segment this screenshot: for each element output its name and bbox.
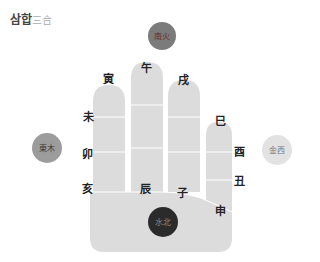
branch-zi: 子 [177, 184, 188, 200]
west-metal-label: 金西 [269, 146, 285, 155]
middle-finger [131, 62, 163, 192]
branch-chou: 丑 [234, 172, 245, 188]
east-wood-circle: 東木 [32, 133, 62, 163]
branch-shen: 申 [215, 202, 226, 218]
east-wood-label: 東木 [39, 144, 55, 153]
branch-xu: 戌 [178, 71, 189, 87]
branch-wu: 午 [141, 59, 152, 75]
south-char: 南 [154, 32, 162, 41]
branch-you: 酉 [234, 143, 245, 159]
index-finger [93, 85, 125, 192]
ring-finger [168, 80, 200, 192]
north-char: 北 [163, 218, 171, 227]
south-fire-circle: 南 火 [148, 22, 176, 50]
branch-wei: 未 [83, 108, 94, 124]
branch-yin: 寅 [103, 70, 114, 86]
branch-hai: 亥 [82, 180, 93, 196]
north-water-circle: 水 北 [148, 207, 178, 237]
fire-char: 火 [162, 32, 170, 41]
branch-mao: 卯 [82, 145, 93, 161]
water-char: 水 [155, 218, 163, 227]
branch-chen: 辰 [140, 180, 151, 196]
branch-si: 巳 [215, 112, 226, 128]
west-metal-circle: 金西 [262, 135, 292, 165]
